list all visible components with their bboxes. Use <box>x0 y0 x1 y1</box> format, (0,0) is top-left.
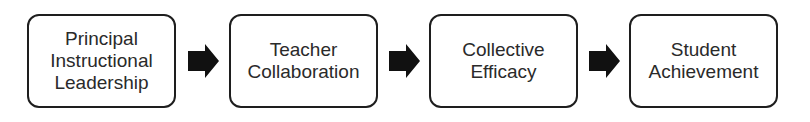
node-teacher-collaboration: Teacher Collaboration <box>229 14 378 108</box>
node-collective-efficacy: Collective Efficacy <box>429 14 578 108</box>
right-arrow-icon <box>389 44 420 78</box>
node-label: Principal Instructional Leadership <box>50 28 152 94</box>
right-arrow-icon <box>589 44 620 78</box>
right-arrow-icon <box>188 44 219 78</box>
node-label: Student Achievement <box>649 39 759 83</box>
node-label: Collective Efficacy <box>462 39 544 83</box>
node-student-achievement: Student Achievement <box>629 14 778 108</box>
node-principal-instructional-leadership: Principal Instructional Leadership <box>27 14 176 108</box>
node-label: Teacher Collaboration <box>248 39 360 83</box>
